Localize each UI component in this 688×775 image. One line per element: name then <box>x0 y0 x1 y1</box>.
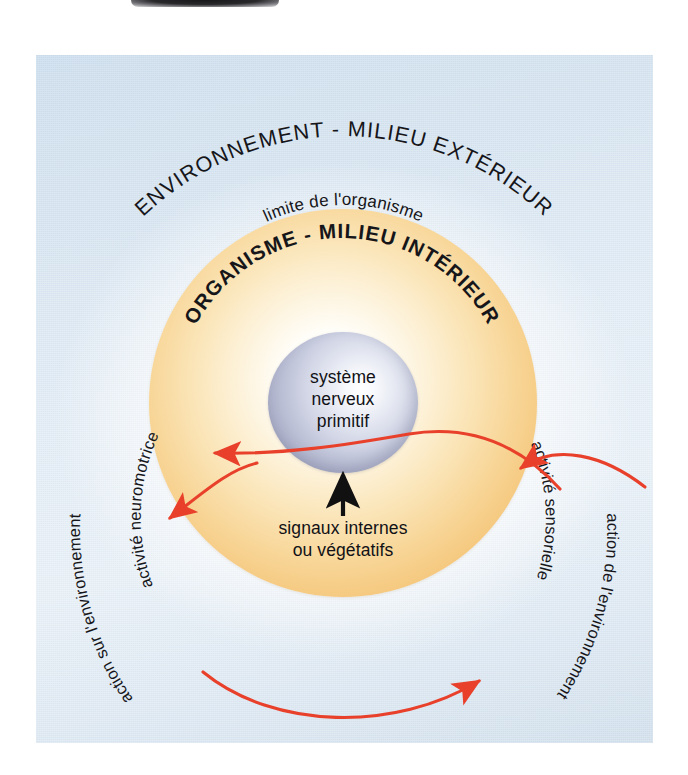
figure-root: système nerveux primitif signaux interne… <box>0 0 688 775</box>
nerve-sphere-label-line3: primitif <box>268 410 418 432</box>
nerve-sphere-label-line1: système <box>268 366 418 388</box>
scan-edge-artifact <box>131 0 279 7</box>
nerve-sphere-label: système nerveux primitif <box>268 366 418 432</box>
internal-signals-label-line2: ou végétatifs <box>243 539 443 561</box>
internal-signals-label-line1: signaux internes <box>243 517 443 539</box>
internal-signals-label: signaux internes ou végétatifs <box>243 517 443 561</box>
nerve-sphere-label-line2: nerveux <box>268 388 418 410</box>
